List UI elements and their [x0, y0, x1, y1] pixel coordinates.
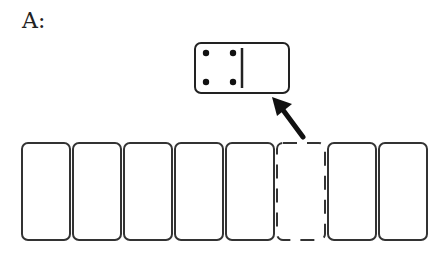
tile: [379, 143, 427, 240]
tile: [22, 143, 70, 240]
arrow-icon: [272, 97, 303, 137]
tile: [73, 143, 121, 240]
tile: [124, 143, 172, 240]
pip-icon: [230, 79, 236, 85]
tile-row: [22, 143, 427, 240]
tile: [328, 143, 376, 240]
pip-icon: [230, 50, 236, 56]
domino-pips: [203, 50, 236, 85]
domino: [195, 43, 289, 93]
tile: [226, 143, 274, 240]
domino-diagram: [0, 0, 440, 265]
empty-tile-slot: [277, 143, 325, 240]
pip-icon: [203, 50, 209, 56]
tile: [175, 143, 223, 240]
pip-icon: [203, 79, 209, 85]
